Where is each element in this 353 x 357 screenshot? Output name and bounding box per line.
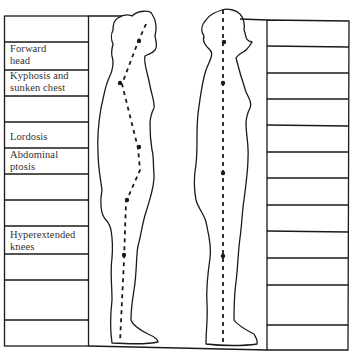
label-forward-head-line2: head <box>10 55 90 67</box>
poor-posture-landmark-dots <box>118 39 141 257</box>
poor-posture-silhouette <box>98 11 158 343</box>
label-kyphosis-line1: Kyphosis and <box>10 70 90 82</box>
good-posture-figure <box>195 9 258 345</box>
label-abdominal-ptosis-line1: Abdominal <box>10 149 90 161</box>
frame-lines <box>89 16 268 350</box>
label-lordosis: Lordosis <box>10 131 90 143</box>
label-kyphosis-line2: sunken chest <box>10 82 90 94</box>
label-hyperextended-knees-line1: Hyperextended <box>10 229 90 241</box>
poor-posture-figure <box>98 11 158 343</box>
label-abdominal-ptosis-line2: ptosis <box>10 161 90 173</box>
label-forward-head: Forward head <box>10 43 90 66</box>
label-abdominal-ptosis: Abdominal ptosis <box>10 149 90 172</box>
right-table <box>267 20 349 350</box>
good-posture-silhouette <box>195 9 258 345</box>
label-forward-head-line1: Forward <box>10 43 90 55</box>
label-lordosis-line1: Lordosis <box>10 131 90 143</box>
label-hyperextended-knees-line2: knees <box>10 241 90 253</box>
label-hyperextended-knees: Hyperextended knees <box>10 229 90 252</box>
label-kyphosis: Kyphosis and sunken chest <box>10 70 90 93</box>
